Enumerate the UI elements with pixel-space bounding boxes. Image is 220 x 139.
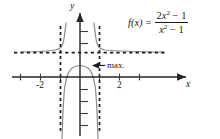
formula-argument: (x) <box>131 17 143 28</box>
max-annotation-label: max. <box>107 61 125 70</box>
formula-numerator-constant: − 1 <box>173 10 187 21</box>
formula-denominator-constant: − 1 <box>170 24 184 35</box>
x-axis-arrow-icon <box>177 73 186 81</box>
x-tick-label-minus-2: -2 <box>36 81 44 91</box>
curve-left-branch <box>21 23 66 52</box>
x-tick-label-plus-2: 2 <box>117 81 122 91</box>
max-pointer-arrow-icon <box>92 62 99 68</box>
formula-numerator-exponent: 2 <box>166 9 170 17</box>
formula-denominator-exponent: 2 <box>164 23 168 31</box>
formula-numerator: 2x2 − 1 <box>155 10 189 23</box>
function-graph-figure: y x -2 2 max. f(x) = 2x2 − 1 x2 − 1 <box>0 0 220 139</box>
function-formula: f(x) = 2x2 − 1 x2 − 1 <box>128 10 188 35</box>
formula-equals-sign: = <box>146 17 152 28</box>
formula-denominator: x2 − 1 <box>157 23 186 35</box>
y-axis-arrow-icon <box>76 13 84 22</box>
formula-fraction: 2x2 − 1 x2 − 1 <box>155 10 189 35</box>
y-axis-label: y <box>70 2 74 12</box>
x-axis-label: x <box>186 80 190 90</box>
